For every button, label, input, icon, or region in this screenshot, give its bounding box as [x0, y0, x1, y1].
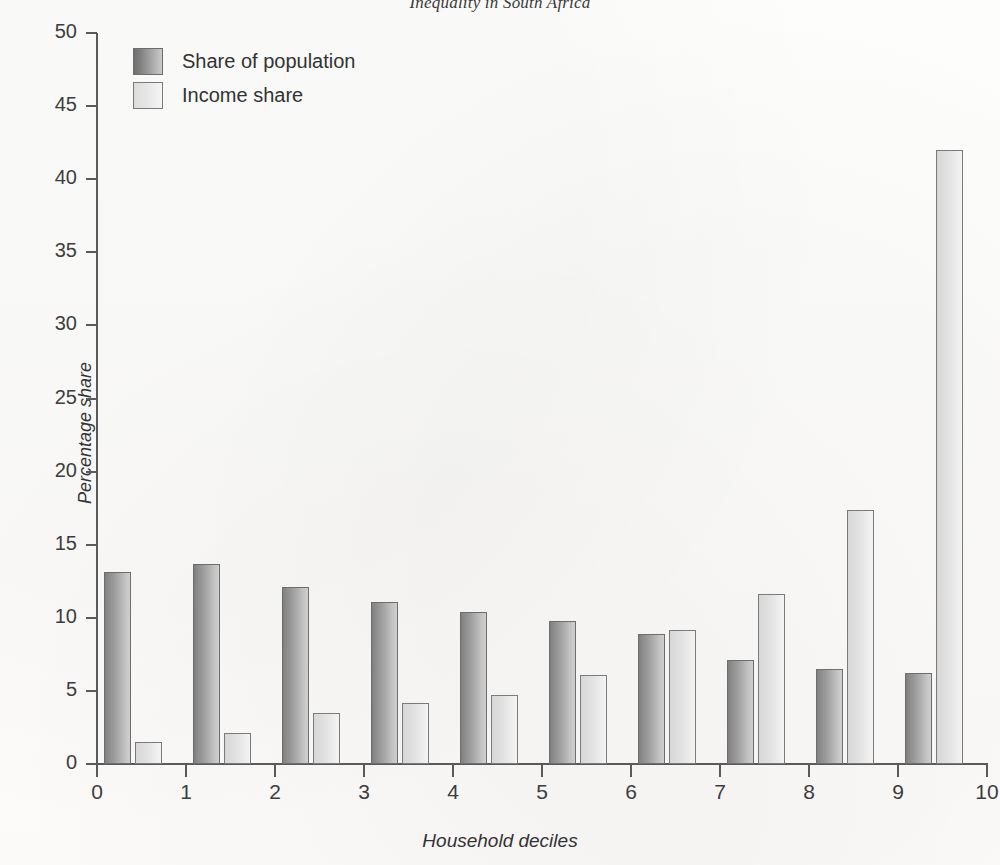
- y-axis-tick: 5: [86, 690, 97, 692]
- x-axis-tick: 8: [808, 764, 810, 777]
- bar-income-decile-9: [936, 150, 963, 764]
- x-axis-tick-label: 9: [892, 780, 904, 804]
- y-axis-tick: 35: [86, 251, 97, 253]
- legend-label-population: Share of population: [182, 50, 355, 73]
- y-axis-tick-label: 35: [55, 239, 77, 261]
- x-axis-tick-label: 10: [975, 780, 998, 804]
- chart-figure: Inequality in South Africa Percentage sh…: [0, 0, 1000, 865]
- x-axis-tick-label: 2: [269, 780, 281, 804]
- y-axis-tick-label: 40: [55, 166, 77, 188]
- y-axis-title: Percentage share: [75, 361, 96, 503]
- y-axis-tick-label: 10: [55, 605, 77, 627]
- plot-area: 05101520253035404550 012345678910: [97, 33, 987, 764]
- legend-swatch-icon-population: [133, 48, 163, 75]
- x-axis-tick-label: 4: [447, 780, 459, 804]
- bar-population-decile-0: [104, 572, 131, 764]
- chart-title: Inequality in South Africa: [0, 0, 1000, 13]
- x-axis-tick: 4: [452, 764, 454, 777]
- y-axis-tick: 20: [86, 471, 97, 473]
- y-axis-tick: 25: [86, 398, 97, 400]
- bar-population-decile-5: [549, 621, 576, 764]
- bar-income-decile-4: [491, 695, 518, 764]
- x-axis-title: Household deciles: [0, 830, 1000, 852]
- y-axis-tick-label: 0: [66, 751, 77, 773]
- chart-legend: Share of population Income share: [133, 44, 355, 112]
- bar-income-decile-0: [135, 742, 162, 764]
- x-axis-tick-label: 6: [625, 780, 637, 804]
- x-axis-tick-label: 7: [714, 780, 726, 804]
- x-axis-tick: 7: [719, 764, 721, 777]
- x-axis-tick: 3: [363, 764, 365, 777]
- y-axis-tick: 50: [86, 32, 97, 34]
- bar-income-decile-3: [402, 703, 429, 764]
- y-axis-tick: 45: [86, 105, 97, 107]
- x-axis-tick: 5: [541, 764, 543, 777]
- bar-income-decile-1: [224, 733, 251, 764]
- bar-income-decile-2: [313, 713, 340, 764]
- bar-population-decile-3: [371, 602, 398, 764]
- legend-label-income: Income share: [182, 84, 303, 107]
- y-axis-tick: 10: [86, 617, 97, 619]
- x-axis-tick: 6: [630, 764, 632, 777]
- x-axis-tick: 2: [274, 764, 276, 777]
- y-axis-tick: 40: [86, 178, 97, 180]
- legend-item-income-share: Income share: [133, 78, 355, 112]
- y-axis-tick-label: 25: [55, 386, 77, 408]
- x-axis-tick-label: 0: [91, 780, 103, 804]
- bar-income-decile-8: [847, 510, 874, 764]
- x-axis-tick-label: 3: [358, 780, 370, 804]
- bar-population-decile-1: [193, 564, 220, 764]
- x-axis-tick-label: 5: [536, 780, 548, 804]
- y-axis-tick-label: 5: [66, 678, 77, 700]
- bar-population-decile-9: [905, 673, 932, 764]
- x-axis-tick: 1: [185, 764, 187, 777]
- y-axis-tick: 30: [86, 324, 97, 326]
- bar-population-decile-8: [816, 669, 843, 764]
- bar-population-decile-6: [638, 634, 665, 764]
- y-axis-tick-label: 30: [55, 312, 77, 334]
- bar-population-decile-4: [460, 612, 487, 764]
- bar-population-decile-7: [727, 660, 754, 764]
- x-axis-tick: 0: [96, 764, 98, 777]
- x-axis-tick: 9: [897, 764, 899, 777]
- x-axis-tick-label: 1: [180, 780, 192, 804]
- x-axis-tick: 10: [986, 764, 988, 777]
- legend-item-share-of-population: Share of population: [133, 44, 355, 78]
- y-axis-tick-label: 45: [55, 93, 77, 115]
- bar-population-decile-2: [282, 587, 309, 764]
- bar-income-decile-5: [580, 675, 607, 764]
- bar-income-decile-6: [669, 630, 696, 765]
- y-axis-tick: 15: [86, 544, 97, 546]
- legend-swatch-icon-income: [133, 82, 163, 109]
- y-axis-tick-label: 15: [55, 532, 77, 554]
- x-axis-tick-label: 8: [803, 780, 815, 804]
- y-axis-tick-label: 50: [55, 20, 77, 42]
- y-axis-tick-label: 20: [55, 459, 77, 481]
- bar-income-decile-7: [758, 594, 785, 764]
